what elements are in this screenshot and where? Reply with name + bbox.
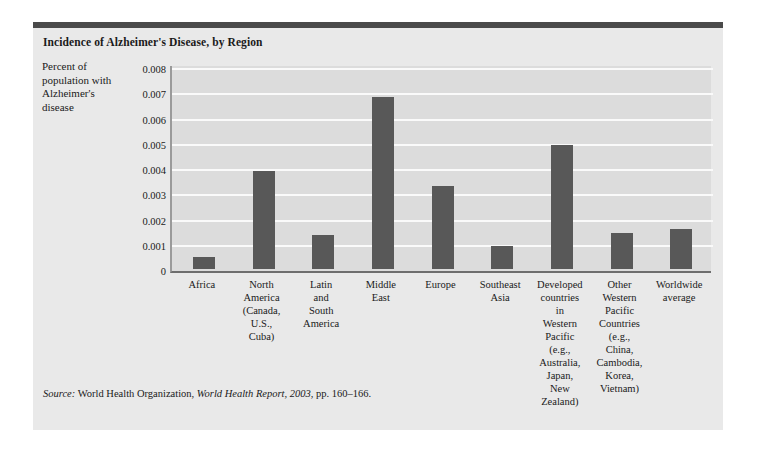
x-axis-tick-label-line: Pacific [589, 304, 651, 317]
x-axis-tick-label-line: Japan, [529, 369, 591, 382]
gridline [172, 119, 713, 121]
y-axis-tick-label: 0.001 [106, 240, 166, 251]
bar [372, 97, 394, 269]
chart-plot: 00.0010.0020.0030.0040.0050.0060.0070.00… [170, 66, 711, 273]
y-axis-tick-label: 0.008 [106, 64, 166, 75]
x-axis-tick-label-line: Developed [529, 278, 591, 291]
x-axis-tick-label-line: (e.g., [529, 343, 591, 356]
x-axis-tick-label: Africa [171, 278, 233, 291]
bar [670, 229, 692, 269]
x-axis-tick-label-line: Africa [171, 278, 233, 291]
x-axis-tick-label-line: (Canada, [231, 304, 293, 317]
x-axis-tick-label: MiddleEast [350, 278, 412, 304]
x-axis-tick-label-line: New [529, 382, 591, 395]
figure-top-rule [33, 22, 723, 28]
x-axis-tick-label-line: Vietnam) [589, 382, 651, 395]
x-axis-tick-label-line: Southeast [469, 278, 531, 291]
x-axis-tick-label-line: Countries [589, 317, 651, 330]
source-note: Source: World Health Organization, World… [43, 388, 371, 399]
x-axis-tick-label-line: Australia, [529, 356, 591, 369]
y-axis-tick-label: 0.006 [106, 114, 166, 125]
x-axis-tick-label-line: Western [529, 317, 591, 330]
x-axis-tick-label-line: America [231, 291, 293, 304]
x-axis-tick-label-line: Latin [290, 278, 352, 291]
plot-area [170, 66, 711, 273]
x-axis-tick-label-line: average [648, 291, 710, 304]
x-axis-tick-label-line: Worldwide [648, 278, 710, 291]
gridline [172, 93, 713, 95]
x-axis-tick-label-line: Western [589, 291, 651, 304]
gridline [172, 144, 713, 146]
y-axis-tick-label: 0.004 [106, 165, 166, 176]
x-axis-tick-label-line: Pacific [529, 330, 591, 343]
x-axis-tick-label-line: in [529, 304, 591, 317]
figure-card: Incidence of Alzheimer's Disease, by Reg… [33, 22, 723, 430]
x-axis-tick-label: OtherWesternPacificCountries(e.g.,China,… [589, 278, 651, 395]
x-axis-tick-label-line: Cuba) [231, 330, 293, 343]
source-label: Source: [43, 388, 75, 399]
source-publication: World Health Report, 2003 [197, 388, 311, 399]
y-axis-tick-label: 0.005 [106, 139, 166, 150]
x-axis-tick-label-line: Zealand) [529, 395, 591, 408]
y-axis-tick-label: 0.003 [106, 190, 166, 201]
x-axis-tick-label-line: South [290, 304, 352, 317]
x-axis-tick-label-line: Cambodia, [589, 356, 651, 369]
x-axis-tick-label-line: countries [529, 291, 591, 304]
x-axis-tick-label-line: Korea, [589, 369, 651, 382]
x-axis-tick-label: SoutheastAsia [469, 278, 531, 304]
x-axis-tick-label-line: East [350, 291, 412, 304]
x-axis-tick-label: Worldwideaverage [648, 278, 710, 304]
bar [551, 145, 573, 269]
x-axis-tick-label: DevelopedcountriesinWesternPacific(e.g.,… [529, 278, 591, 408]
page-title: Incidence of Alzheimer's Disease, by Reg… [43, 36, 263, 48]
x-axis-tick-label-line: China, [589, 343, 651, 356]
x-axis-tick-label: LatinandSouthAmerica [290, 278, 352, 330]
x-axis-tick-label-line: Other [589, 278, 651, 291]
bar [312, 235, 334, 269]
gridline [172, 68, 713, 70]
y-axis-tick-label: 0 [106, 266, 166, 277]
bar [193, 257, 215, 269]
y-axis-title-line: disease [42, 101, 142, 115]
x-axis-tick-label-line: Middle [350, 278, 412, 291]
y-axis-title-line: population with [42, 74, 142, 88]
x-axis-tick-label-line: Asia [469, 291, 531, 304]
bar [611, 233, 633, 269]
x-axis-tick-label-line: U.S., [231, 317, 293, 330]
bar [432, 186, 454, 269]
x-axis-tick-label: Europe [410, 278, 472, 291]
source-pages: , pp. 160–166. [311, 388, 371, 399]
bar [491, 246, 513, 269]
x-axis-tick-label: NorthAmerica(Canada,U.S.,Cuba) [231, 278, 293, 343]
x-axis-tick-label-line: (e.g., [589, 330, 651, 343]
x-axis-tick-label-line: America [290, 317, 352, 330]
x-axis-tick-label-line: and [290, 291, 352, 304]
y-axis-tick-label: 0.007 [106, 89, 166, 100]
x-axis-tick-label-line: Europe [410, 278, 472, 291]
y-axis-tick-label: 0.002 [106, 215, 166, 226]
x-axis-tick-label-line: North [231, 278, 293, 291]
bar [253, 171, 275, 269]
source-organization: World Health Organization, [75, 388, 197, 399]
